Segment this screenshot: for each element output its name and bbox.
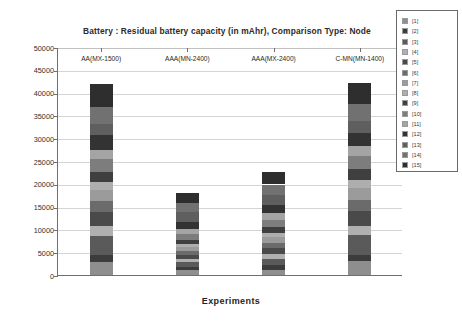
legend-label: [11] <box>412 121 421 127</box>
bar-segment[interactable] <box>176 212 199 222</box>
legend-item[interactable]: [15] <box>402 160 421 170</box>
legend-item[interactable]: [14] <box>402 150 421 160</box>
bar-segment[interactable] <box>262 254 285 259</box>
gridline <box>58 48 402 49</box>
bar-segment[interactable] <box>176 203 199 212</box>
bar-segment[interactable] <box>90 212 113 226</box>
bar-segment[interactable] <box>262 243 285 248</box>
bar-segment[interactable] <box>90 255 113 262</box>
bar-segment[interactable] <box>262 213 285 221</box>
bar-segment[interactable] <box>348 200 371 211</box>
bar-segment[interactable] <box>176 255 199 259</box>
bar-segment[interactable] <box>176 267 199 270</box>
bar-segment[interactable] <box>176 193 199 203</box>
y-tick-label: 40000 <box>8 89 54 98</box>
y-tick-label: 30000 <box>8 135 54 144</box>
bar-segment[interactable] <box>348 188 371 200</box>
bar-segment[interactable] <box>90 84 113 108</box>
legend-item[interactable]: [10] <box>402 109 421 119</box>
bar-segment[interactable] <box>176 259 199 262</box>
bar-segment[interactable] <box>348 261 371 275</box>
legend-swatch-icon <box>402 80 408 86</box>
bar-segment[interactable] <box>176 270 199 275</box>
legend-item[interactable]: [12] <box>402 129 421 139</box>
y-tick-mark <box>54 71 58 72</box>
bar-segment[interactable] <box>90 124 113 136</box>
bar-segment[interactable] <box>176 262 199 267</box>
legend-swatch-icon <box>402 49 408 55</box>
legend-item[interactable]: [5] <box>402 57 418 67</box>
bar-segment[interactable] <box>262 270 285 275</box>
bar-segment[interactable] <box>348 156 371 169</box>
bar-segment[interactable] <box>348 211 371 226</box>
legend-item[interactable]: [11] <box>402 119 421 129</box>
bar-segment[interactable] <box>90 159 113 171</box>
bar-segment[interactable] <box>348 226 371 236</box>
legend-item[interactable]: [8] <box>402 88 418 98</box>
y-tick-label: 50000 <box>8 44 54 53</box>
bar-segment[interactable] <box>262 227 285 232</box>
legend-swatch-icon <box>402 142 408 148</box>
bar-segment[interactable] <box>90 226 113 236</box>
x-tick-mark <box>274 48 275 52</box>
bar-segment[interactable] <box>262 265 285 269</box>
bar-segment[interactable] <box>348 169 371 179</box>
bar-segment[interactable] <box>90 135 113 149</box>
bar-segment[interactable] <box>90 172 113 182</box>
bar-segment[interactable] <box>262 220 285 227</box>
bar-segment[interactable] <box>262 259 285 266</box>
bar-segment[interactable] <box>90 190 113 201</box>
bar-segment[interactable] <box>176 234 199 239</box>
bar-segment[interactable] <box>90 262 113 275</box>
legend-swatch-icon <box>402 152 408 158</box>
legend-label: [4] <box>412 49 418 55</box>
bar-segment[interactable] <box>348 146 371 156</box>
bar-segment[interactable] <box>90 201 113 212</box>
bar-segment[interactable] <box>262 248 285 254</box>
legend-label: [13] <box>412 142 421 148</box>
legend-label: [7] <box>412 80 418 86</box>
bar-segment[interactable] <box>262 172 285 184</box>
bar-segment[interactable] <box>176 222 199 229</box>
legend-label: [6] <box>412 70 418 76</box>
y-tick-label: 15000 <box>8 203 54 212</box>
bar-segment[interactable] <box>262 205 285 213</box>
bar-segment[interactable] <box>348 133 371 147</box>
bar-segment[interactable] <box>90 107 113 123</box>
bar-segment[interactable] <box>90 236 113 255</box>
legend[interactable]: [1][2][3][4][5][6][7][8][9][10][11][12][… <box>396 10 458 172</box>
bar-segment[interactable] <box>348 255 371 261</box>
bar-segment[interactable] <box>262 185 285 195</box>
legend-item[interactable]: [1] <box>402 16 418 26</box>
bar-segment[interactable] <box>90 150 113 160</box>
bar-stack[interactable] <box>348 83 371 275</box>
bar-stack[interactable] <box>176 193 199 275</box>
legend-item[interactable]: [3] <box>402 37 418 47</box>
bar-stack[interactable] <box>90 83 113 275</box>
legend-item[interactable]: [13] <box>402 140 421 150</box>
legend-item[interactable]: [4] <box>402 47 418 57</box>
bar-segment[interactable] <box>348 104 371 121</box>
bar-segment[interactable] <box>176 244 199 247</box>
y-tick-label: 25000 <box>8 158 54 167</box>
bar-stack[interactable] <box>262 172 285 275</box>
bar-segment[interactable] <box>90 182 113 190</box>
bar-segment[interactable] <box>348 121 371 132</box>
bar-segment[interactable] <box>262 237 285 243</box>
legend-item[interactable]: [6] <box>402 68 418 78</box>
legend-swatch-icon <box>402 100 408 106</box>
bar-segment[interactable] <box>262 195 285 205</box>
bar-segment[interactable] <box>348 235 371 255</box>
legend-item[interactable]: [7] <box>402 78 418 88</box>
x-tick-label: AA(MX-1500) <box>51 55 151 62</box>
legend-swatch-icon <box>402 111 408 117</box>
bar-segment[interactable] <box>348 83 371 105</box>
bar-segment[interactable] <box>176 229 199 235</box>
bar-segment[interactable] <box>176 240 199 244</box>
bar-segment[interactable] <box>176 247 199 251</box>
bar-segment[interactable] <box>348 180 371 188</box>
bar-segment[interactable] <box>176 251 199 255</box>
legend-item[interactable]: [2] <box>402 26 418 36</box>
bar-segment[interactable] <box>262 233 285 238</box>
legend-item[interactable]: [9] <box>402 98 418 108</box>
